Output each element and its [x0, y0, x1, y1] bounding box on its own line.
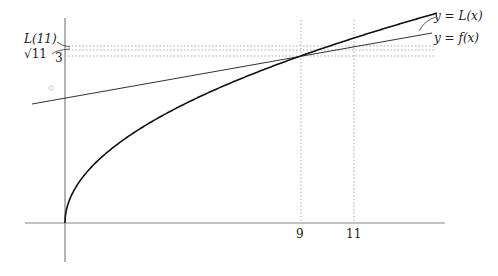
- label-three: 3: [55, 51, 63, 65]
- tangent-line: [32, 33, 432, 104]
- linear-approximation-figure: L(11) √11 3 9 11 y = L(x) y = f(x): [0, 0, 498, 276]
- label-yf: y = f(x): [434, 31, 479, 45]
- tick-9: 9: [296, 227, 304, 241]
- label-yL: y = L(x): [434, 9, 483, 23]
- plot-canvas: [0, 0, 498, 276]
- sqrt-curve: [65, 13, 437, 223]
- label-L11: L(11): [24, 32, 57, 46]
- label-sqrt11: √11: [24, 47, 47, 61]
- tick-11: 11: [346, 227, 361, 241]
- arrow-L11: [57, 42, 70, 47]
- stray-dot: [49, 86, 53, 90]
- guide-lines: [65, 20, 435, 223]
